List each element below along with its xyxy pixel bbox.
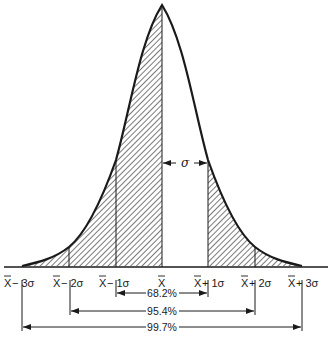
- range-68-label: 68.2%: [147, 287, 177, 299]
- svg-text:+ 3σ: + 3σ: [296, 277, 319, 289]
- svg-text:X: X: [53, 277, 61, 289]
- svg-text:+ 1σ: + 1σ: [202, 277, 225, 289]
- sigma-label: σ: [181, 156, 190, 170]
- axis-label-minus-1-sigma: X − 1σ: [99, 276, 130, 289]
- axis-label-plus-1-sigma: X + 1σ: [194, 276, 225, 289]
- normal-distribution-diagram: σ X − 3σ X − 2σ X − 1σ X X + 1σ: [0, 0, 332, 337]
- svg-text:X: X: [194, 277, 202, 289]
- svg-text:X: X: [288, 277, 296, 289]
- axis-label-minus-3-sigma: X − 3σ: [4, 276, 35, 289]
- svg-text:− 2σ: − 2σ: [61, 277, 84, 289]
- range-95-label: 95.4%: [147, 305, 177, 317]
- sigma-width-marker: σ: [163, 156, 207, 170]
- svg-text:X: X: [4, 277, 12, 289]
- shaded-right-tail: [162, 5, 302, 266]
- shaded-left-half: [22, 5, 162, 266]
- svg-text:+ 2σ: + 2σ: [249, 277, 272, 289]
- svg-text:X: X: [99, 277, 107, 289]
- axis-label-minus-2-sigma: X − 2σ: [53, 276, 84, 289]
- range-99-label: 99.7%: [147, 321, 177, 333]
- svg-text:− 3σ: − 3σ: [12, 277, 35, 289]
- svg-text:X: X: [241, 277, 249, 289]
- axis-label-plus-2-sigma: X + 2σ: [241, 276, 272, 289]
- svg-text:− 1σ: − 1σ: [107, 277, 130, 289]
- axis-label-plus-3-sigma: X + 3σ: [288, 276, 319, 289]
